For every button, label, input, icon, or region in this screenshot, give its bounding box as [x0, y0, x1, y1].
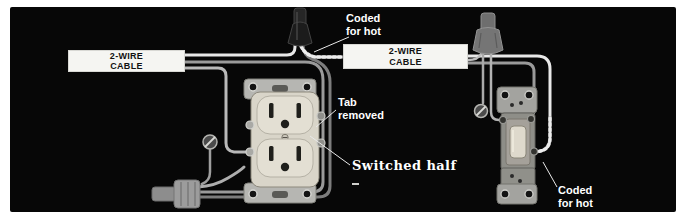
- coded-top-line1: Coded: [346, 12, 381, 25]
- callout-switched-half: Switched half: [352, 160, 456, 173]
- cable-label-left-line2: CABLE: [68, 61, 185, 72]
- tab-line2: removed: [338, 109, 384, 122]
- callout-tab-removed: Tab removed: [338, 96, 384, 121]
- lower-ground-hole: [281, 163, 289, 171]
- ground-screw-right: [475, 105, 488, 118]
- ground-screw-left: [203, 135, 217, 149]
- upper-slot-right: [297, 103, 302, 118]
- coded-wire-terminal: [531, 148, 538, 155]
- upper-slot-left: [269, 103, 274, 118]
- duplex-receptacle: [244, 79, 325, 203]
- callout-coded-for-hot-right: Coded for hot: [558, 184, 593, 209]
- coded-right-line2: for hot: [558, 197, 593, 210]
- cable-label-right-line1: 2-WIRE: [343, 46, 468, 57]
- lower-slot-left: [269, 146, 274, 161]
- cable-label-right: 2-WIRE CABLE: [343, 44, 468, 69]
- toggle-switch: [497, 87, 538, 204]
- tab-line1: Tab: [338, 96, 384, 109]
- lower-slot-right: [297, 146, 302, 161]
- cable-label-left-line1: 2-WIRE: [68, 51, 185, 62]
- cable-label-left: 2-WIRE CABLE: [68, 50, 185, 72]
- upper-ground-hole: [281, 120, 289, 128]
- dash-mark: [352, 183, 359, 185]
- tab-terminal-upper: [317, 112, 325, 120]
- callout-coded-for-hot-top: Coded for hot: [346, 12, 381, 37]
- switched-half-outlet: [257, 139, 313, 177]
- coded-top-line2: for hot: [346, 25, 381, 38]
- wiring-diagram-page: 2-WIRE CABLE 2-WIRE CABLE Coded for hot …: [0, 0, 690, 224]
- coded-right-line1: Coded: [558, 184, 593, 197]
- cable-label-right-line2: CABLE: [343, 57, 468, 68]
